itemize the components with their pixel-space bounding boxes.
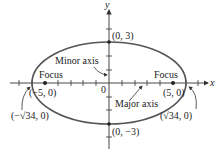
left-focus-label: Focus [39, 69, 63, 80]
origin-label: 0 [101, 84, 106, 95]
right-focus-label: Focus [154, 69, 178, 80]
right-vertex-arrow [189, 87, 196, 109]
bottom-vertex-point [107, 122, 111, 126]
right-focus-coord: (5, 0) [163, 87, 185, 99]
major-axis-label: Major axis [115, 98, 158, 109]
ellipse-diagram: x y 0 (0, 3) (0, −3) Focus Focus (−5, [0, 0, 218, 149]
minor-axis-label: Minor axis [55, 55, 99, 66]
minor-axis-arrow [94, 67, 107, 75]
right-focus-point [171, 81, 175, 85]
left-vertex-label: (−√34, 0) [11, 110, 49, 122]
left-focus-point [43, 81, 47, 85]
left-focus-coord: (−5, 0) [29, 87, 56, 99]
y-axis-label: y [104, 0, 110, 10]
top-vertex-point [107, 40, 111, 44]
x-axis-label: x [209, 77, 215, 88]
right-vertex-label: (√34, 0) [160, 110, 192, 122]
bottom-vertex-label: (0, −3) [112, 126, 139, 138]
top-vertex-label: (0, 3) [112, 30, 134, 42]
